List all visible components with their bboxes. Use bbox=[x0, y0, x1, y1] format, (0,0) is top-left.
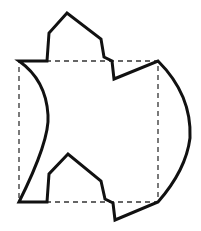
diagram-canvas bbox=[0, 0, 201, 231]
modified-tile-shape bbox=[19, 13, 190, 220]
tessellation-diagram bbox=[0, 0, 201, 231]
